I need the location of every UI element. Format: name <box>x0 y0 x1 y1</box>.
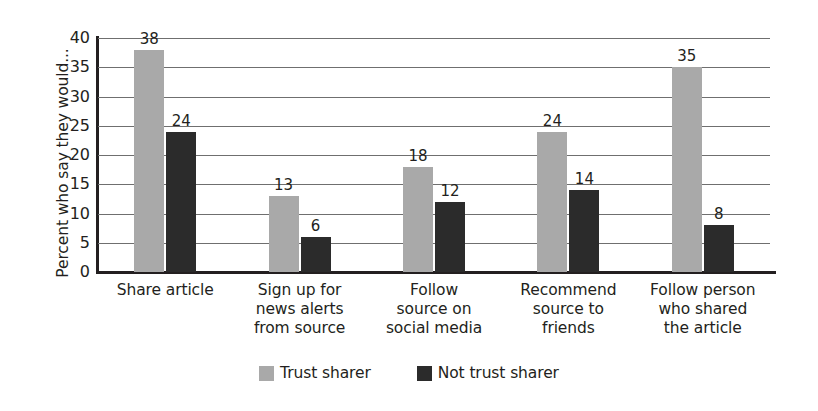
gridline <box>98 97 770 98</box>
category-label: Recommendsource tofriends <box>493 281 643 338</box>
bar-value-label: 14 <box>564 172 604 187</box>
y-tick-label: 20 <box>50 147 90 163</box>
category-label-line: friends <box>493 319 643 338</box>
category-label-line: the article <box>628 319 778 338</box>
y-tick-label: 5 <box>50 235 90 251</box>
chart-legend: Trust sharerNot trust sharer <box>0 366 818 382</box>
category-label: Followsource onsocial media <box>359 281 509 338</box>
bar-trust-sharer <box>269 196 299 272</box>
bar-value-label: 35 <box>667 49 707 64</box>
category-label: Sign up fornews alertsfrom source <box>225 281 375 338</box>
category-label-line: Recommend <box>493 281 643 300</box>
legend-item: Trust sharer <box>259 366 371 382</box>
category-label-line: source on <box>359 300 509 319</box>
category-label: Share article <box>90 281 240 300</box>
legend-label: Trust sharer <box>280 366 371 382</box>
bar-value-label: 12 <box>430 184 470 199</box>
y-axis-ticks: 4035302520151050 <box>44 38 90 272</box>
grouped-bar-chart: Percent who say they would... 4035302520… <box>0 0 818 411</box>
legend-label: Not trust sharer <box>438 366 559 382</box>
bar-value-label: 24 <box>161 114 201 129</box>
y-tick-label: 30 <box>50 89 90 105</box>
y-tick-label: 0 <box>50 264 90 280</box>
gridline <box>98 243 770 244</box>
category-label-line: Sign up for <box>225 281 375 300</box>
bar-trust-sharer <box>134 50 164 272</box>
y-tick-label: 10 <box>50 206 90 222</box>
bar-value-label: 13 <box>264 178 304 193</box>
bar-trust-sharer <box>403 167 433 272</box>
y-tick-label: 40 <box>50 30 90 46</box>
bar-not-trust-sharer <box>704 225 734 272</box>
bar-value-label: 24 <box>532 114 572 129</box>
category-label-line: social media <box>359 319 509 338</box>
bar-not-trust-sharer <box>569 190 599 272</box>
category-label-line: news alerts <box>225 300 375 319</box>
bar-value-label: 38 <box>129 32 169 47</box>
legend-swatch-trust <box>259 366 274 381</box>
bar-not-trust-sharer <box>301 237 331 272</box>
category-label-line: Follow person <box>628 281 778 300</box>
category-label-line: Follow <box>359 281 509 300</box>
y-tick-label: 25 <box>50 118 90 134</box>
category-label: Follow personwho sharedthe article <box>628 281 778 338</box>
category-label-line: source to <box>493 300 643 319</box>
gridline <box>98 214 770 215</box>
bar-not-trust-sharer <box>166 132 196 272</box>
bar-value-label: 8 <box>699 207 739 222</box>
plot-area: 382413618122414358 <box>98 38 770 272</box>
bar-value-label: 6 <box>296 219 336 234</box>
bar-value-label: 18 <box>398 149 438 164</box>
category-label-line: Share article <box>90 281 240 300</box>
bar-not-trust-sharer <box>435 202 465 272</box>
gridline <box>98 67 770 68</box>
category-label-line: from source <box>225 319 375 338</box>
legend-swatch-not-trust <box>417 366 432 381</box>
category-label-line: who shared <box>628 300 778 319</box>
legend-item: Not trust sharer <box>417 366 559 382</box>
y-tick-label: 35 <box>50 59 90 75</box>
gridline <box>98 38 770 39</box>
y-tick-label: 15 <box>50 176 90 192</box>
bar-trust-sharer <box>672 67 702 272</box>
bar-trust-sharer <box>537 132 567 272</box>
